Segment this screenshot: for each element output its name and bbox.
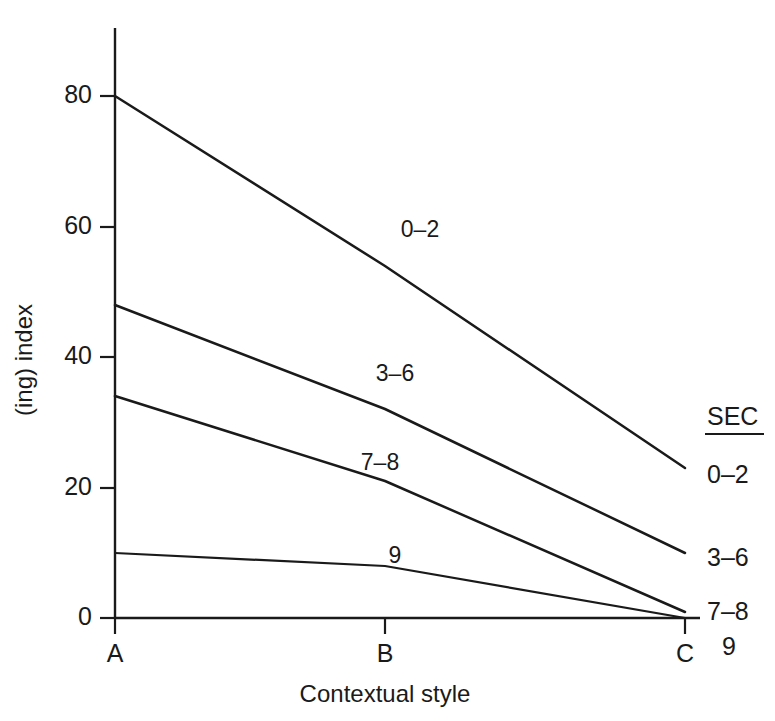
inline-label-0-2: 0–2 — [401, 216, 439, 242]
y-tick-label-60: 60 — [64, 211, 92, 239]
inline-series-labels: 0–2 3–6 7–8 9 — [361, 216, 439, 568]
y-tick-labels: 80 60 40 20 0 — [64, 80, 92, 630]
y-axis-title: (ing) index — [10, 304, 37, 416]
y-tick-marks — [100, 96, 115, 618]
x-tick-labels: A B C — [107, 639, 694, 667]
legend-title: SEC — [707, 402, 758, 430]
legend: SEC 0–2 3–6 7–8 9 — [705, 402, 764, 660]
axis-group — [115, 28, 700, 618]
line-chart-canvas: 80 60 40 20 0 A B C Contextual style (in… — [0, 0, 775, 721]
legend-item-3-6: 3–6 — [707, 543, 749, 571]
x-tick-label-a: A — [107, 639, 124, 667]
y-tick-label-40: 40 — [64, 341, 92, 369]
series-line-7-8 — [115, 396, 685, 612]
legend-item-9: 9 — [722, 632, 736, 660]
x-axis-title: Contextual style — [300, 680, 471, 707]
chart-figure: 80 60 40 20 0 A B C Contextual style (in… — [0, 0, 775, 721]
series-lines — [115, 96, 685, 618]
series-line-0-2 — [115, 96, 685, 468]
inline-label-9: 9 — [389, 542, 402, 568]
x-tick-marks — [115, 618, 685, 634]
y-tick-label-0: 0 — [78, 602, 92, 630]
inline-label-3-6: 3–6 — [376, 360, 414, 386]
x-tick-label-c: C — [676, 639, 694, 667]
y-tick-label-80: 80 — [64, 80, 92, 108]
y-tick-label-20: 20 — [64, 472, 92, 500]
legend-item-0-2: 0–2 — [707, 460, 749, 488]
legend-item-7-8: 7–8 — [707, 597, 749, 625]
x-tick-label-b: B — [377, 639, 394, 667]
series-line-3-6 — [115, 305, 685, 553]
inline-label-7-8: 7–8 — [361, 449, 399, 475]
